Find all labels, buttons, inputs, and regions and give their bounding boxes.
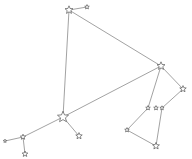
constellation-line	[69, 10, 161, 66]
constellation-line	[156, 108, 162, 146]
star-icon	[20, 134, 25, 139]
constellation-line	[127, 108, 148, 130]
star-icon	[65, 6, 73, 14]
star-icon	[57, 111, 68, 121]
constellation-canvas	[0, 0, 192, 159]
star-icon	[22, 151, 28, 156]
constellation-line	[127, 130, 156, 146]
star-icon	[153, 142, 160, 149]
constellation-line	[5, 137, 23, 141]
constellation-stars	[3, 5, 186, 157]
star-icon	[85, 5, 90, 9]
constellation-line	[161, 66, 183, 89]
constellation-diagram	[0, 0, 192, 159]
constellation-line	[23, 117, 63, 137]
constellation-line	[63, 10, 69, 117]
star-icon	[154, 106, 159, 110]
constellation-line	[148, 66, 161, 108]
constellation-lines	[5, 7, 183, 154]
star-icon	[3, 139, 6, 142]
constellation-line	[162, 89, 183, 108]
star-icon	[157, 62, 165, 70]
star-icon	[146, 106, 151, 110]
